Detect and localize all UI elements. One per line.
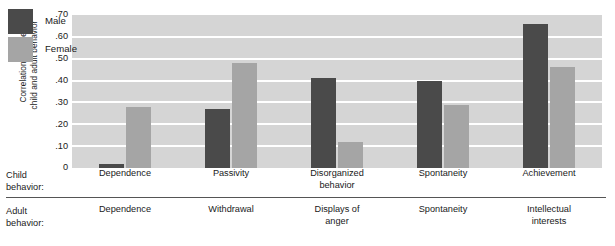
bar-female	[232, 63, 257, 168]
category-label-rows: Child behavior: DependencePassivityDisor…	[0, 168, 615, 246]
child-behavior-label: Spontaneity	[390, 168, 496, 180]
adult-behavior-row-title: Adult behavior:	[6, 206, 70, 229]
bar-male	[205, 109, 230, 168]
bar-group	[284, 15, 390, 168]
bar-group	[390, 15, 496, 168]
y-tick-label: .30	[38, 98, 68, 107]
bar-group	[496, 15, 602, 168]
bar-female	[550, 67, 575, 168]
row-divider	[6, 197, 606, 198]
bar-male	[311, 78, 336, 168]
legend-item-female: Female	[8, 35, 158, 63]
child-behavior-label: Passivity	[178, 168, 284, 180]
bar-female	[126, 107, 151, 168]
adult-behavior-label: Dependence	[72, 204, 178, 216]
legend-swatch-female	[8, 37, 33, 62]
bar-group	[178, 15, 284, 168]
adult-behavior-cells: DependenceWithdrawalDisplays of angerSpo…	[72, 204, 602, 238]
adult-behavior-label: Intellectual interests	[496, 204, 602, 227]
bar-female	[338, 142, 363, 168]
child-behavior-label: Disorganized behavior	[284, 168, 390, 191]
child-behavior-label: Dependence	[72, 168, 178, 180]
bar-male	[417, 81, 442, 168]
adult-behavior-label: Displays of anger	[284, 204, 390, 227]
legend: MaleFemale	[8, 7, 158, 63]
bar-male	[523, 24, 548, 168]
child-behavior-label: Achievement	[496, 168, 602, 180]
legend-label: Female	[45, 44, 77, 54]
chart-figure: Correlation between child and adult beha…	[0, 0, 615, 246]
legend-label: Male	[45, 16, 66, 26]
legend-item-male: Male	[8, 7, 158, 35]
legend-swatch-male	[8, 9, 33, 34]
adult-behavior-label: Withdrawal	[178, 204, 284, 216]
y-tick-label: .10	[38, 142, 68, 151]
bar-female	[444, 105, 469, 168]
y-tick-label: .20	[38, 120, 68, 129]
y-tick-label: .40	[38, 76, 68, 85]
adult-behavior-label: Spontaneity	[390, 204, 496, 216]
child-behavior-row-title: Child behavior:	[6, 170, 70, 193]
